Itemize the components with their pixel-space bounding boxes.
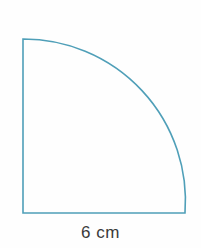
quarter-circle-figure: 6 cm <box>0 0 201 248</box>
quarter-circle-shape <box>0 0 201 248</box>
quarter-circle-outline <box>23 39 185 213</box>
base-length-label: 6 cm <box>0 222 201 244</box>
